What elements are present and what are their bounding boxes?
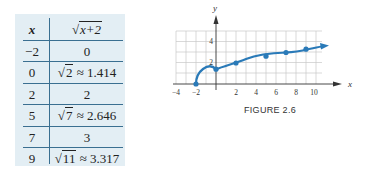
- header-x: x: [15, 22, 49, 38]
- approx-value: ≈ 2.646: [73, 108, 116, 123]
- table-row: 2 2: [15, 84, 125, 104]
- table-row: 5 √7 ≈ 2.646: [15, 105, 125, 125]
- sqrt-symbol: √: [72, 22, 79, 38]
- svg-text:10: 10: [310, 88, 318, 97]
- svg-text:8: 8: [294, 88, 298, 97]
- figure-caption: FIGURE 2.6: [240, 105, 300, 115]
- curve-arrow-icon: [320, 43, 329, 50]
- svg-text:−4: −4: [172, 88, 180, 97]
- table-row: −2 0: [15, 41, 125, 61]
- header-y: √x+2: [49, 22, 125, 38]
- value-table: x √x+2 −2 0 0 √2 ≈ 1.414 2 2 5 √7 ≈ 2.64…: [15, 14, 125, 166]
- y-axis-arrow-icon: [214, 15, 219, 24]
- x-axis-label: x: [347, 79, 352, 89]
- header-radicand: x+2: [79, 21, 102, 37]
- cell-y: 0: [49, 44, 125, 60]
- cell-x: 0: [15, 65, 49, 81]
- svg-text:6: 6: [274, 88, 278, 97]
- approx-value: ≈ 1.414: [73, 65, 116, 80]
- approx-value: ≈ 3.317: [76, 151, 119, 166]
- cell-x: 5: [15, 108, 49, 124]
- table-row: 9 √11 ≈ 3.317: [15, 148, 125, 168]
- cell-y: √2 ≈ 1.414: [49, 65, 125, 81]
- svg-text:−2: −2: [192, 88, 200, 97]
- cell-y: 3: [49, 130, 125, 146]
- x-tick-labels: −4 −2 2 4 6 8 10: [172, 88, 318, 97]
- axes: [173, 20, 337, 90]
- svg-text:4: 4: [254, 88, 258, 97]
- cell-x: 9: [15, 151, 49, 167]
- table-row: 7 3: [15, 127, 125, 147]
- table-header-row: x √x+2: [15, 19, 125, 39]
- cell-x: −2: [15, 44, 49, 60]
- cell-x: 7: [15, 130, 49, 146]
- y-axis-label: y: [212, 3, 217, 13]
- x-axis-arrow-icon: [333, 82, 342, 87]
- table-row: 0 √2 ≈ 1.414: [15, 62, 125, 82]
- cell-x: 2: [15, 87, 49, 103]
- cell-y: √7 ≈ 2.646: [49, 108, 125, 124]
- svg-text:4: 4: [209, 37, 213, 46]
- svg-text:2: 2: [234, 88, 238, 97]
- cell-y: √11 ≈ 3.317: [49, 151, 125, 167]
- radicand: 11: [62, 150, 77, 166]
- cell-y: 2: [49, 87, 125, 103]
